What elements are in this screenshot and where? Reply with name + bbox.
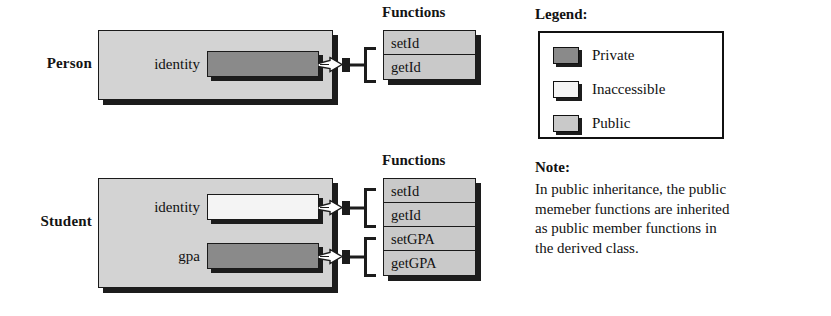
member-bar-student-gpa-private <box>207 243 319 269</box>
pointer-hand-icon <box>318 200 344 217</box>
member-name-person-identity: identity <box>99 56 207 73</box>
class-box-person: identity <box>98 30 333 100</box>
member-name-student-identity: identity <box>99 199 207 216</box>
note-body: In public inheritance, the public memebe… <box>535 180 827 258</box>
member-name-student-gpa: gpa <box>99 248 207 265</box>
connector-knob <box>342 250 350 264</box>
legend-label-private: Private <box>592 47 635 64</box>
function-row-student-setid: setId <box>384 179 475 203</box>
functions-box-person: setId getId <box>383 30 476 80</box>
legend-item-private: Private <box>553 47 635 64</box>
legend-title: Legend: <box>535 6 588 23</box>
legend-swatch-inaccessible <box>553 81 579 98</box>
connector-bracket <box>364 188 376 228</box>
member-bar-student-identity-inaccessible <box>207 194 319 220</box>
note-title: Note: <box>535 159 570 176</box>
function-row-person-setid: setId <box>384 31 475 55</box>
functions-box-student: setId getId setGPA getGPA <box>383 178 476 276</box>
member-row-student-identity: identity <box>99 194 324 220</box>
pointer-hand-icon <box>318 57 344 74</box>
legend-box: Private Inaccessible Public <box>538 31 724 139</box>
function-row-student-setgpa: setGPA <box>384 227 475 251</box>
connector-knob <box>342 58 350 72</box>
connector-person-identity <box>318 47 378 83</box>
note-line-2: memeber functions are inherited <box>535 200 827 220</box>
member-row-person-identity: identity <box>99 51 324 77</box>
legend-item-public: Public <box>553 115 630 132</box>
connector-bracket <box>364 237 376 277</box>
legend-item-inaccessible: Inaccessible <box>553 81 665 98</box>
note-line-1: In public inheritance, the public <box>535 180 827 200</box>
note-line-4: the derived class. <box>535 239 827 259</box>
legend-label-inaccessible: Inaccessible <box>592 81 665 98</box>
class-label-student: Student <box>2 213 92 230</box>
function-row-student-getgpa: getGPA <box>384 251 475 275</box>
class-box-student: identity gpa <box>98 178 333 288</box>
member-bar-person-identity-private <box>207 51 319 77</box>
functions-heading-student: Functions <box>382 152 445 169</box>
pointer-hand-icon <box>318 249 344 266</box>
connector-student-identity <box>318 188 378 228</box>
legend-label-public: Public <box>592 115 630 132</box>
connector-student-gpa <box>318 237 378 277</box>
functions-heading-person: Functions <box>382 4 445 21</box>
connector-knob <box>342 201 350 215</box>
function-row-student-getid: getId <box>384 203 475 227</box>
connector-bracket <box>364 47 376 83</box>
class-label-person: Person <box>6 55 92 72</box>
legend-swatch-public <box>553 115 579 132</box>
function-row-person-getid: getId <box>384 55 475 79</box>
note-line-3: as public member functions in <box>535 219 827 239</box>
legend-swatch-private <box>553 47 579 64</box>
member-row-student-gpa: gpa <box>99 243 324 269</box>
